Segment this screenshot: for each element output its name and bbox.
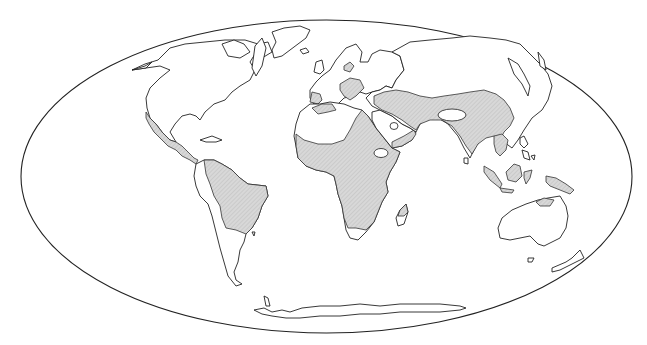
japan xyxy=(520,136,528,148)
sri-lanka xyxy=(464,158,468,164)
new-zealand xyxy=(552,250,584,272)
ethiopian-highlands-hole xyxy=(374,149,388,158)
british-isles xyxy=(314,60,324,74)
tarim-basin-hole xyxy=(438,109,466,121)
iceland xyxy=(300,48,309,54)
central-arabia-hole xyxy=(390,123,398,130)
tasmania xyxy=(528,258,534,262)
iberia-shaded xyxy=(310,92,322,104)
new-guinea-shaded xyxy=(546,176,574,194)
philippines xyxy=(522,150,530,160)
antarctic-peninsula xyxy=(264,296,270,306)
borneo-shaded xyxy=(506,164,522,182)
cuba xyxy=(200,136,222,142)
antarctica xyxy=(254,304,466,318)
sumatra-shaded xyxy=(484,166,502,188)
falklands xyxy=(252,232,255,236)
sulawesi-shaded xyxy=(524,170,532,184)
java-shaded xyxy=(500,188,514,193)
australia xyxy=(498,196,568,246)
taiwan xyxy=(531,155,535,160)
world-map xyxy=(0,0,647,345)
